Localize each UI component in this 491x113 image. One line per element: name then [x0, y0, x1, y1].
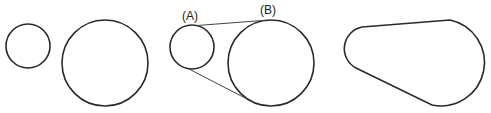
label-a: (A) — [182, 9, 198, 23]
large-pulley-circle — [62, 20, 148, 106]
panel-tangent-construction: (A) (B) — [170, 3, 314, 106]
pulley-b-circle — [228, 20, 314, 106]
belt-outline-shape — [344, 20, 484, 106]
label-b: (B) — [260, 3, 276, 17]
lower-tangent-line — [189, 69, 247, 99]
panel-belt-outline — [344, 20, 484, 106]
pulley-a-circle — [170, 25, 214, 69]
small-pulley-circle — [6, 24, 50, 68]
panel-separate-pulleys — [6, 20, 148, 106]
belt-drive-diagram: (A) (B) — [0, 0, 491, 113]
